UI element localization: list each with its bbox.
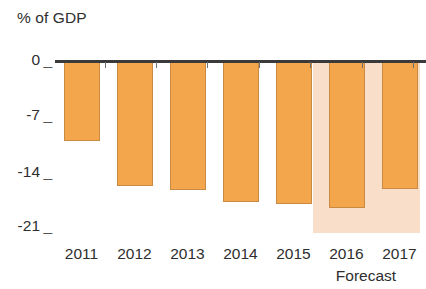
x-axis-label-2016: 2016 (317, 245, 377, 263)
forecast-annotation-label: Forecast (312, 267, 420, 285)
x-tick-1 (156, 62, 157, 68)
bar-2017 (382, 61, 418, 189)
y-tick-label-3: -21_ (18, 217, 52, 235)
x-tick-3 (259, 62, 260, 68)
x-tick-5 (362, 62, 363, 68)
bar-2012 (117, 61, 153, 186)
zero-baseline (55, 60, 426, 63)
y-tick-dash-1: _ (43, 106, 52, 124)
bar-2015 (276, 61, 312, 204)
x-axis-label-2014: 2014 (211, 245, 271, 263)
x-tick-2 (207, 62, 208, 68)
y-tick-label-2: -14_ (18, 163, 52, 181)
y-tick-label-1: -7_ (26, 106, 52, 124)
x-axis-label-2011: 2011 (52, 245, 112, 263)
x-axis-label-2013: 2013 (158, 245, 218, 263)
bar-2011 (64, 61, 100, 141)
x-tick-6 (413, 62, 414, 68)
x-axis-label-2017: 2017 (370, 245, 426, 263)
bar-chart: % of GDP 0_ -7_ -14_ -21_ 20112012201320… (0, 0, 426, 289)
x-tick-4 (310, 62, 311, 68)
y-tick-dash-3: _ (43, 217, 52, 235)
bar-2014 (223, 61, 259, 201)
x-axis-label-2015: 2015 (264, 245, 324, 263)
y-axis-labels: 0_ -7_ -14_ -21_ (0, 0, 52, 289)
bar-2016 (329, 61, 365, 208)
y-tick-dash-0: _ (43, 51, 52, 69)
y-tick-label-0: 0_ (31, 51, 52, 69)
x-tick-0 (105, 62, 106, 68)
y-tick-dash-2: _ (43, 163, 52, 181)
bar-2013 (170, 61, 206, 189)
x-axis-label-2012: 2012 (105, 245, 165, 263)
plot-area (55, 55, 426, 235)
